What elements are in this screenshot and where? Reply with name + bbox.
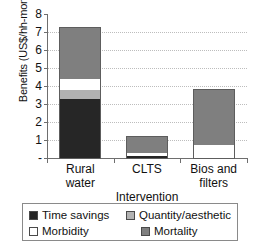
y-tick-label: 6 (24, 44, 42, 56)
bar-segment-morbidity (194, 145, 234, 158)
y-tick-label: 1 (24, 134, 42, 146)
y-tick-label: 2 (24, 116, 42, 128)
legend-item-time-savings[interactable]: Time savings (29, 209, 126, 221)
legend-item-quantity-aesthetic[interactable]: Quantity/aesthetic (126, 209, 231, 221)
bar-segment-mortality (60, 28, 100, 78)
legend-label-mortality: Mortality (154, 225, 197, 237)
chart-figure: Benefits (US$/hh-month) -12345678 Ruralw… (0, 0, 260, 245)
y-tick-label: - (24, 152, 42, 164)
y-tick-label: 7 (24, 26, 42, 38)
y-tick-label: 4 (24, 80, 42, 92)
y-tick-label: 5 (24, 62, 42, 74)
x-category-label: Ruralwater (42, 163, 118, 190)
y-tick-label: 8 (24, 8, 42, 20)
stacked-bar[interactable] (60, 28, 100, 158)
y-tick-label: 3 (24, 98, 42, 110)
legend-label-morbidity: Morbidity (42, 225, 89, 237)
legend-row: Morbidity Mortality (29, 223, 231, 239)
legend-swatch-icon-quantity-aesthetic (126, 211, 135, 220)
x-axis-title: Intervention (47, 190, 247, 204)
bar-segment-mortality (127, 137, 167, 152)
x-category-label: Bios andfilters (176, 163, 252, 190)
stacked-bar[interactable] (127, 137, 167, 158)
chart-legend: Time savings Quantity/aesthetic Morbidit… (22, 203, 238, 241)
x-tick-mark (247, 158, 248, 163)
legend-label-time-savings: Time savings (42, 209, 109, 221)
x-category-label: CLTS (109, 163, 185, 177)
stacked-bar[interactable] (194, 90, 234, 158)
bar-segment-quantity (60, 90, 100, 99)
legend-item-morbidity[interactable]: Morbidity (29, 225, 141, 237)
bar-segment-mortality (194, 90, 234, 146)
legend-label-quantity-aesthetic: Quantity/aesthetic (139, 209, 231, 221)
bar-segment-time (127, 156, 167, 158)
bar-segment-morbidity (60, 79, 100, 90)
legend-item-mortality[interactable]: Mortality (141, 225, 197, 237)
bar-segment-time (60, 99, 100, 158)
bars-layer (47, 14, 247, 158)
legend-row: Time savings Quantity/aesthetic (29, 207, 231, 223)
x-axis-line (47, 158, 247, 159)
legend-swatch-icon-morbidity (29, 227, 38, 236)
legend-swatch-icon-mortality (141, 227, 150, 236)
legend-swatch-icon-time-savings (29, 211, 38, 220)
